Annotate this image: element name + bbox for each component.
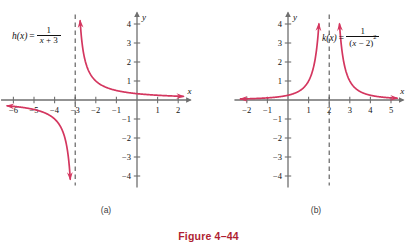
y-tick-label: −3 — [273, 152, 282, 162]
y-tick-label: 3 — [278, 38, 282, 48]
function-label-h-fraction: 1 x + 3 — [37, 26, 61, 46]
x-axis-label: x — [187, 86, 192, 96]
function-label-k: k(x) = 1 (x − 2)2 — [322, 27, 379, 49]
function-label-h: h(x) = 1 x + 3 — [12, 26, 61, 46]
y-axis-label: y — [292, 12, 297, 22]
y-tick-label: 4 — [278, 19, 283, 29]
function-label-h-denominator: x + 3 — [37, 35, 61, 45]
y-axis-label: y — [141, 12, 146, 22]
y-tick-label: 2 — [127, 57, 131, 67]
figure-caption: Figure 4–44 — [0, 230, 417, 242]
y-tick-label: −1 — [273, 114, 282, 124]
function-label-k-denominator: (x − 2)2 — [346, 36, 379, 48]
x-tick-label: 1 — [306, 105, 310, 115]
y-tick-label: −1 — [122, 114, 131, 124]
graph-svg-b: xy−2−112345−4−3−2−11234 — [208, 0, 417, 215]
graph-panel-b: xy−2−112345−4−3−2−11234 — [208, 0, 417, 215]
x-tick-label: −4 — [50, 105, 60, 115]
function-label-k-lhs: k(x) — [322, 33, 337, 43]
function-label-h-den-rest: + 3 — [44, 35, 58, 45]
function-label-k-exponent: 2 — [373, 33, 376, 40]
x-tick-label: 3 — [348, 105, 352, 115]
function-label-h-equals: = — [29, 31, 34, 41]
x-tick-label: 4 — [368, 105, 373, 115]
y-tick-label: 2 — [278, 57, 282, 67]
y-tick-label: −3 — [122, 152, 131, 162]
y-tick-label: −4 — [273, 171, 283, 181]
y-tick-label: 3 — [127, 38, 131, 48]
x-tick-label: 2 — [176, 105, 180, 115]
y-tick-label: −2 — [122, 133, 131, 143]
x-axis-label: x — [399, 86, 404, 96]
function-label-k-fraction: 1 (x − 2)2 — [346, 27, 379, 49]
curve-branch — [7, 106, 70, 179]
x-tick-label: −2 — [242, 105, 251, 115]
function-label-k-equals: = — [339, 33, 344, 43]
function-label-h-lhs: h(x) — [12, 31, 27, 41]
function-label-h-numerator: 1 — [43, 26, 54, 35]
y-tick-label: −2 — [273, 133, 282, 143]
x-tick-label: −2 — [91, 105, 100, 115]
x-tick-label: −1 — [112, 105, 121, 115]
figure-container: xy−6−5−4−3−2−112−4−3−2−11234 xy−2−112345… — [0, 0, 417, 249]
y-tick-label: 4 — [127, 19, 132, 29]
curve-branch — [80, 21, 183, 97]
function-label-k-numerator: 1 — [358, 27, 369, 36]
y-tick-label: 1 — [278, 76, 282, 86]
function-label-k-den-rest: − 2 — [356, 38, 370, 48]
x-tick-label: 5 — [389, 105, 393, 115]
x-tick-label: −1 — [263, 105, 272, 115]
panel-sublabel-a: (a) — [86, 205, 126, 215]
panel-sublabel-b: (b) — [296, 205, 336, 215]
x-tick-label: 1 — [155, 105, 159, 115]
y-tick-label: 1 — [127, 76, 131, 86]
y-tick-label: −4 — [122, 171, 132, 181]
